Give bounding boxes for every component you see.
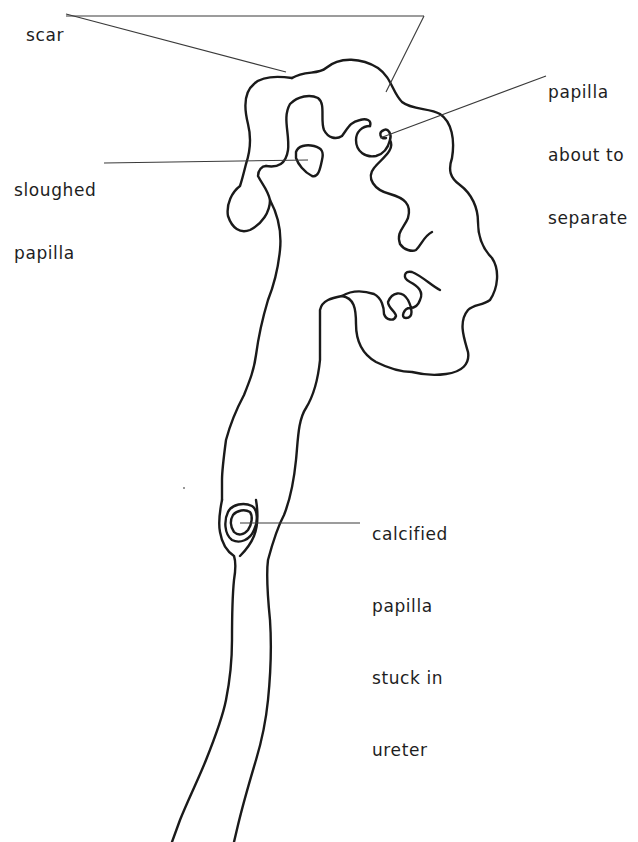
label-line: separate <box>548 208 628 229</box>
ureter-bulge <box>172 500 236 842</box>
calcified-papilla-inner <box>231 510 252 534</box>
leader-scar-right <box>386 16 424 92</box>
papilla-hook <box>356 126 391 156</box>
label-papilla-about-to-separate: papilla about to separate <box>548 40 628 250</box>
label-line: sloughed <box>14 180 96 201</box>
calyx-lower <box>342 272 440 320</box>
leader-scar-left <box>66 14 286 72</box>
caption-fragment: idney ared; <box>0 800 44 842</box>
label-line: ureter <box>372 738 448 762</box>
pelvis-left-wall <box>222 200 281 500</box>
leader-sloughed <box>104 160 308 163</box>
label-line: papilla <box>372 594 448 618</box>
leader-papilla-separate <box>380 76 546 138</box>
speck <box>183 487 185 489</box>
calyx-mid <box>371 140 432 251</box>
label-calcified-papilla: calcified papilla stuck in ureter <box>372 474 448 786</box>
label-sloughed-papilla: sloughed papilla <box>14 138 96 285</box>
kidney-diagram <box>0 0 638 842</box>
label-line: papilla <box>14 243 96 264</box>
label-line: stuck in <box>372 666 448 690</box>
label-line: about to <box>548 145 628 166</box>
sloughed-papilla <box>296 145 323 176</box>
kidney-outline <box>234 60 497 842</box>
kidney-outline-left <box>228 77 292 231</box>
calyx-upper <box>266 96 370 166</box>
label-line: papilla <box>548 82 628 103</box>
label-scar: scar <box>14 4 64 46</box>
label-line: calcified <box>372 522 448 546</box>
label-scar-text: scar <box>26 25 64 45</box>
